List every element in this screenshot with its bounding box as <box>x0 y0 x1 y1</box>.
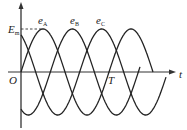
waveform-diagram: Em eA eB eC O T t <box>0 0 187 130</box>
origin-label: O <box>9 74 17 86</box>
period-label: T <box>108 74 115 86</box>
t-axis-label: t <box>179 68 183 80</box>
amplitude-label: Em <box>7 23 20 36</box>
label-eb: eB <box>70 14 79 27</box>
label-ea: eA <box>38 14 48 27</box>
label-ec: eC <box>96 14 105 27</box>
y-axis-arrow-icon <box>19 2 24 9</box>
t-axis-arrow-icon <box>169 70 176 75</box>
